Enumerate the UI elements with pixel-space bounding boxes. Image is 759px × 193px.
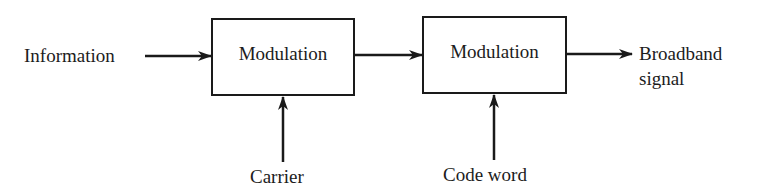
code-word-label: Code word	[443, 164, 527, 186]
modulation-block-1-label: Modulation	[239, 43, 328, 65]
modulation-block-1: Modulation	[211, 18, 355, 96]
information-label: Information	[24, 45, 115, 67]
connector-arrows	[0, 0, 759, 193]
modulation-block-2-label: Modulation	[450, 41, 539, 63]
modulation-block-2: Modulation	[422, 16, 567, 94]
output-label-line2: signal	[639, 68, 684, 90]
block-diagram: Information Modulation Modulation Carrie…	[0, 0, 759, 193]
output-label-line1: Broadband	[639, 43, 722, 65]
carrier-label: Carrier	[250, 166, 304, 188]
